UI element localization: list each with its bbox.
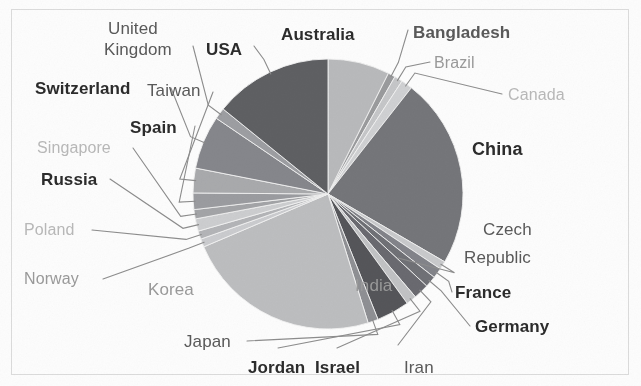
pie-label-czech: Czech [483,221,532,238]
leader-line-bangladesh [391,30,408,77]
pie-chart-screenshot: UnitedKingdomUSAAustraliaBangladeshBrazi… [0,0,641,386]
pie-label-taiwan: Taiwan [147,82,201,99]
pie-label-czech2: Republic [464,249,531,266]
pie-label-united_kingdom2: Kingdom [104,41,172,58]
leader-line-norway [103,242,204,279]
pie-label-australia: Australia [281,26,355,43]
pie-label-iran: Iran [404,359,434,376]
pie-label-singapore: Singapore [37,140,111,156]
pie-label-japan: Japan [184,333,231,350]
pie-label-united_kingdom: United [108,20,158,37]
pie-label-france: France [455,284,511,301]
leader-line-singapore [133,148,197,216]
pie-label-switzerland: Switzerland [35,80,131,97]
pie-label-canada: Canada [508,87,565,103]
pie-label-poland: Poland [24,222,74,238]
pie-label-korea: Korea [148,281,194,298]
pie-label-china: China [472,140,523,158]
pie-label-brazil: Brazil [434,55,475,71]
pie-slices [193,59,463,329]
pie-label-norway: Norway [24,271,79,287]
pie-label-india: India [355,277,392,294]
pie-label-israel: Israel [315,359,360,376]
leader-line-canada [406,73,502,94]
pie-label-russia: Russia [41,171,97,188]
pie-label-germany: Germany [475,318,549,335]
pie-label-jordan: Jordan [248,359,305,376]
pie-label-spain: Spain [130,119,177,136]
pie-label-usa: USA [206,41,242,58]
leader-line-russia [110,179,199,228]
leader-line-usa [254,46,271,74]
leader-line-brazil [397,62,430,81]
pie-label-bangladesh: Bangladesh [413,24,510,41]
leader-line-poland [92,230,201,239]
